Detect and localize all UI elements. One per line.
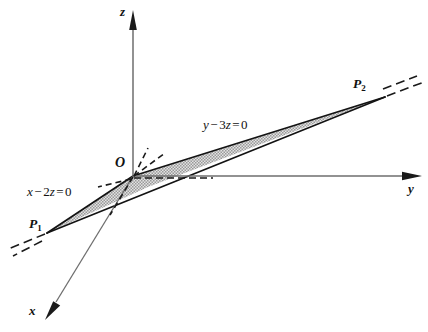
equation-label-x-2z: x−2z=0 <box>27 185 72 198</box>
y-axis-arrowhead <box>402 172 422 180</box>
point-label-p2-letter: P <box>353 76 361 91</box>
point-label-p1: P1 <box>29 217 42 233</box>
axis-label-z: z <box>120 5 125 18</box>
point-label-p1-subscript: 1 <box>37 223 42 233</box>
axis-label-x: x <box>29 304 36 317</box>
x-axis-arrowhead <box>45 301 60 320</box>
dashed-extension-p2-b <box>383 76 417 89</box>
eq1-term-var: z <box>50 184 55 199</box>
eq1-operator: − <box>33 184 43 199</box>
point-label-p2: P2 <box>353 77 366 93</box>
dashed-construction-group <box>8 76 424 256</box>
dashed-extension-p2-a <box>387 82 424 96</box>
equation-label-y-3z: y−3z=0 <box>203 118 248 131</box>
dashed-extension-p1-b <box>13 241 42 256</box>
diagram-svg <box>0 0 428 332</box>
eq2-rhs: 0 <box>241 117 248 132</box>
figure-canvas: z y x O P1 P2 x−2z=0 y−3z=0 <box>0 0 428 332</box>
z-axis-group <box>129 10 137 176</box>
eq2-relation: = <box>231 117 241 132</box>
point-label-p1-letter: P <box>29 216 37 231</box>
axis-label-y: y <box>408 182 414 195</box>
z-axis-arrowhead <box>129 10 137 30</box>
origin-label: O <box>115 156 125 170</box>
eq1-relation: = <box>55 184 65 199</box>
eq2-lhs-var: y <box>203 117 209 132</box>
eq2-term-var: z <box>226 117 231 132</box>
eq1-rhs: 0 <box>65 184 72 199</box>
point-label-p2-subscript: 2 <box>361 83 366 93</box>
eq1-lhs-var: x <box>27 184 33 199</box>
eq2-operator: − <box>209 117 219 132</box>
